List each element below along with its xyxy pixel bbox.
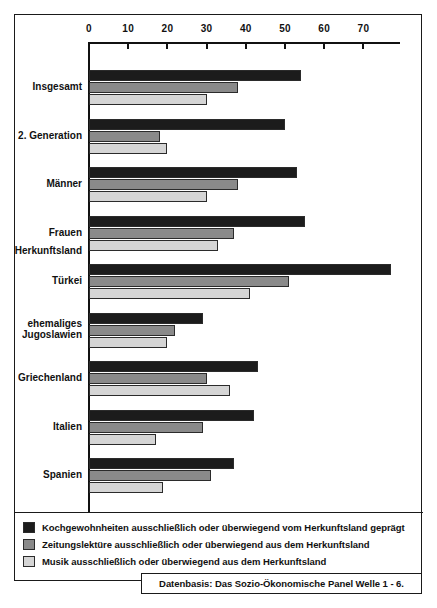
x-tick-0 xyxy=(88,42,90,49)
bar xyxy=(89,179,238,190)
x-tick-label-20: 20 xyxy=(162,23,174,34)
bar xyxy=(89,143,167,154)
category-label: Italien xyxy=(0,421,82,432)
source-note-box: Datenbasis: Das Sozio-Ökonomische Panel … xyxy=(141,573,422,594)
bar xyxy=(89,458,234,469)
x-tick-label-70: 70 xyxy=(358,23,370,34)
x-tick-label-10: 10 xyxy=(122,23,134,34)
bar xyxy=(89,276,289,287)
x-tick-50 xyxy=(284,42,286,49)
x-tick-60 xyxy=(323,42,325,49)
legend-label: Zeitungslektüre ausschließlich oder über… xyxy=(42,539,370,550)
bar xyxy=(89,167,297,178)
bar-group: Männer xyxy=(15,167,423,202)
x-tick-30 xyxy=(206,42,208,49)
bar xyxy=(89,264,391,275)
bar xyxy=(89,119,285,130)
category-label: Griechenland xyxy=(0,372,82,383)
bar xyxy=(89,131,160,142)
bar xyxy=(89,470,211,481)
x-tick-label-60: 60 xyxy=(318,23,330,34)
bar-group: Türkei xyxy=(15,264,423,299)
bar-group: Insgesamt xyxy=(15,70,423,105)
bar xyxy=(89,325,175,336)
bar xyxy=(89,422,203,433)
x-tick-10 xyxy=(127,42,129,49)
bar xyxy=(89,482,163,493)
bar xyxy=(89,410,254,421)
chart-figure: 010203040506070 Insgesamt2. GenerationMä… xyxy=(14,14,422,581)
x-tick-40 xyxy=(245,42,247,49)
category-label: Männer xyxy=(0,178,82,189)
bar xyxy=(89,361,258,372)
bar xyxy=(89,82,238,93)
chart-legend: Kochgewohnheiten ausschließlich oder übe… xyxy=(15,512,423,582)
legend-swatch-icon xyxy=(23,522,35,533)
x-tick-20 xyxy=(166,42,168,49)
legend-item: Zeitungslektüre ausschließlich oder über… xyxy=(23,538,370,551)
x-tick-label-0: 0 xyxy=(86,23,92,34)
x-tick-70 xyxy=(362,42,364,49)
source-note-text: Datenbasis: Das Sozio-Ökonomische Panel … xyxy=(159,578,404,589)
legend-swatch-icon xyxy=(23,556,35,567)
x-tick-label-50: 50 xyxy=(279,23,291,34)
bar xyxy=(89,385,230,396)
bar xyxy=(89,240,218,251)
bar xyxy=(89,288,250,299)
legend-label: Kochgewohnheiten ausschließlich oder übe… xyxy=(42,522,405,533)
plot-area: 010203040506070 Insgesamt2. GenerationMä… xyxy=(15,15,423,512)
bar xyxy=(89,94,207,105)
bar xyxy=(89,337,167,348)
legend-item: Musik ausschließlich oder überwiegend au… xyxy=(23,555,326,568)
category-label: 2. Generation xyxy=(0,130,82,141)
bar-group: Italien xyxy=(15,410,423,445)
bar xyxy=(89,434,156,445)
x-tick-label-30: 30 xyxy=(201,23,213,34)
category-label: Spanien xyxy=(0,469,82,480)
category-label: Frauen xyxy=(0,227,82,238)
x-tick-label-40: 40 xyxy=(240,23,252,34)
bar-group: Spanien xyxy=(15,458,423,493)
legend-label: Musik ausschließlich oder überwiegend au… xyxy=(42,556,326,567)
bar xyxy=(89,70,301,81)
bar xyxy=(89,373,207,384)
category-label: Insgesamt xyxy=(0,81,82,92)
legend-swatch-icon xyxy=(23,539,35,550)
bar xyxy=(89,216,305,227)
category-label: ehemaliges Jugoslawien xyxy=(0,318,82,340)
bar xyxy=(89,191,207,202)
bar xyxy=(89,313,203,324)
category-label: Türkei xyxy=(0,275,82,286)
bar-group: 2. Generation xyxy=(15,119,423,154)
bar-group: Griechenland xyxy=(15,361,423,396)
bar-group: ehemaliges Jugoslawien xyxy=(15,313,423,348)
legend-item: Kochgewohnheiten ausschließlich oder übe… xyxy=(23,521,405,534)
bar xyxy=(89,228,234,239)
group-header-label: Herkunftsland xyxy=(0,245,82,256)
